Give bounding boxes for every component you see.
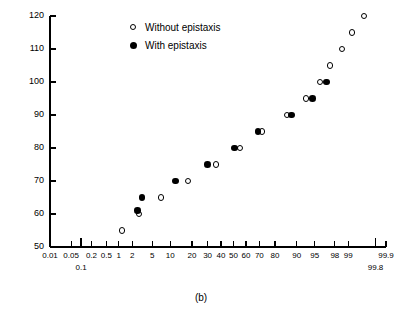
data-point xyxy=(119,227,125,233)
y-tick-label: 100 xyxy=(18,76,44,86)
y-tick-label: 50 xyxy=(18,241,44,251)
x-tick-label: 0.05 xyxy=(63,251,79,260)
x-tick-label: 0.2 xyxy=(86,251,97,260)
x-tick-label: 99 xyxy=(344,251,353,260)
x-tick-label: 0.01 xyxy=(42,251,58,260)
probability-plot: Diastolic pressure (mmHg) 50607080901001… xyxy=(0,0,402,317)
x-tick-label: 99.8 xyxy=(368,263,384,272)
figure-caption: (b) xyxy=(0,292,402,303)
filled-circle-icon xyxy=(128,40,139,51)
x-tick-label: 95 xyxy=(310,251,319,260)
data-point xyxy=(323,79,330,86)
x-tick-label: 99.9 xyxy=(378,251,394,260)
y-tick-label: 70 xyxy=(18,175,44,185)
data-point xyxy=(134,207,141,214)
data-point xyxy=(158,194,164,200)
open-circle-icon xyxy=(128,22,139,33)
x-tick-label: 40 xyxy=(217,251,226,260)
x-tick-label: 1 xyxy=(116,251,120,260)
x-tick-label: 20 xyxy=(188,251,197,260)
legend-label-without-epistaxis: Without epistaxis xyxy=(145,22,221,33)
chart-figure: Diastolic pressure (mmHg) 50607080901001… xyxy=(0,0,402,317)
data-point xyxy=(204,161,211,168)
y-tick-label: 80 xyxy=(18,142,44,152)
x-tick-label: 80 xyxy=(271,251,280,260)
data-point xyxy=(213,161,219,167)
x-tick-label: 90 xyxy=(292,251,301,260)
y-tick-label: 120 xyxy=(18,10,44,20)
x-tick-label: 98 xyxy=(330,251,339,260)
y-tick-label: 60 xyxy=(18,208,44,218)
x-tick-label: 0.1 xyxy=(75,263,86,272)
x-tick-label: 70 xyxy=(255,251,264,260)
legend-label-with-epistaxis: With epistaxis xyxy=(145,40,207,51)
legend-item-with-epistaxis: With epistaxis xyxy=(128,40,221,51)
y-tick-label: 110 xyxy=(18,43,44,53)
data-point xyxy=(255,128,262,135)
y-tick-label: 90 xyxy=(18,109,44,119)
data-point xyxy=(309,95,316,102)
legend-item-without-epistaxis: Without epistaxis xyxy=(128,22,221,33)
x-tick-label: 2 xyxy=(130,251,134,260)
x-tick-label: 30 xyxy=(203,251,212,260)
x-tick-label: 0.5 xyxy=(101,251,112,260)
x-tick-label: 10 xyxy=(166,251,175,260)
data-point xyxy=(327,62,333,68)
x-tick-label: 50 xyxy=(229,251,238,260)
data-point xyxy=(339,46,345,52)
data-point xyxy=(288,112,295,119)
x-tick-label: 5 xyxy=(150,251,154,260)
legend: Without epistaxis With epistaxis xyxy=(128,22,221,58)
data-point xyxy=(172,178,179,185)
x-tick-label: 60 xyxy=(242,251,251,260)
data-point xyxy=(139,194,146,201)
